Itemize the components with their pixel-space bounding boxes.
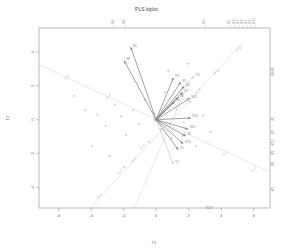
variable-vector <box>156 78 173 120</box>
vector-label: X8 <box>180 94 184 98</box>
sample-points-layer <box>73 63 211 168</box>
x-tick-label: 6 <box>253 213 256 218</box>
vector-label: X7 <box>184 89 188 93</box>
sample-point <box>133 110 135 112</box>
vector-label: Y3 <box>195 73 199 77</box>
vector-label: Y1 <box>180 146 184 150</box>
top-axis-tick-label: X11 <box>252 18 256 24</box>
variable-vector <box>156 76 193 119</box>
x-tick-label: 4 <box>220 213 223 218</box>
vector-label: X4 <box>133 44 137 48</box>
sample-point <box>124 166 126 168</box>
sample-point <box>210 131 212 133</box>
calibration-tick-label: 2 <box>120 169 122 173</box>
sample-point <box>109 155 111 157</box>
calibration-tick-label: 1 <box>255 166 257 170</box>
bottom-axis-tick-label: X13 <box>206 206 212 210</box>
right-axis-tick-label: X2 <box>272 151 276 155</box>
calibration-tick-label: 12 <box>238 46 242 50</box>
right-axis-tick-label: X3 <box>272 162 276 166</box>
sample-point <box>160 128 162 130</box>
top-axis-tick-label: X9 <box>202 20 206 24</box>
variable-vector <box>156 120 173 164</box>
calibration-axes-layer: 654321024810126 <box>39 42 268 208</box>
top-axis-tick-label: X5 <box>227 20 231 24</box>
sample-point <box>120 115 122 117</box>
plot-border <box>39 28 270 208</box>
vector-label: X9 <box>175 74 179 78</box>
variable-vector <box>124 61 156 120</box>
sample-point <box>105 125 107 127</box>
top-axis-tick-label: X4 <box>111 20 115 24</box>
sample-point <box>202 115 204 117</box>
x-tick-label: -4 <box>89 213 93 218</box>
variable-vectors-layer: X4X6X9X5X3X7X8X1X11X10X12X2X13Y1Y2Y3 <box>124 44 199 164</box>
sample-point <box>125 134 127 136</box>
chart-title: PLS biplot <box>135 6 158 12</box>
right-axis-tick-label: X7 <box>272 130 276 134</box>
right-axis-tick-label: X4 <box>272 72 276 76</box>
variable-vector <box>156 120 185 136</box>
sample-point <box>189 101 191 103</box>
sample-point <box>187 63 189 65</box>
y-tick-label: 2 <box>30 84 35 87</box>
sample-point <box>171 137 173 139</box>
x-tick-label: -2 <box>122 213 126 218</box>
vector-label: X12 <box>190 125 196 129</box>
variable-vector <box>156 120 183 144</box>
sample-point <box>148 141 150 143</box>
vector-label: X1 <box>176 98 180 102</box>
calibration-tick-label: 4 <box>143 144 145 148</box>
y-tick-label: 4 <box>30 50 35 53</box>
right-axis-tick-label: X2 <box>272 187 276 191</box>
vector-label: X13 <box>185 140 191 144</box>
vector-label: Y2 <box>175 160 179 164</box>
sample-point <box>195 145 197 147</box>
right-axis-tick-label: X6 <box>272 67 276 71</box>
sample-point <box>176 109 178 111</box>
y-tick-label: -4 <box>30 185 35 189</box>
plot-frame-layer <box>39 28 270 208</box>
plot-canvas: 654321024810126 X4X6X9X5X3X7X8X1X11X10X1… <box>0 0 293 251</box>
x-tick-label: -6 <box>57 213 61 218</box>
vector-label: X11 <box>191 95 197 99</box>
y-axis-label: T2 <box>5 115 10 121</box>
vector-label: X6 <box>126 57 130 61</box>
x-tick-label: 2 <box>187 213 190 218</box>
sample-point <box>97 114 99 116</box>
variable-vector <box>156 102 174 120</box>
sample-point <box>138 123 140 125</box>
sample-point <box>114 104 116 106</box>
sample-point <box>164 92 166 94</box>
sample-point <box>85 110 87 112</box>
sample-point <box>183 121 185 123</box>
calibration-tick-label: 10 <box>216 69 220 73</box>
calibration-axis <box>39 65 268 172</box>
variable-vector <box>156 98 189 119</box>
x-tick-label: 0 <box>155 213 158 218</box>
vector-label: X2 <box>187 132 191 136</box>
x-axis-label: T1 <box>152 240 158 245</box>
pls-biplot-figure: 654321024810126 X4X6X9X5X3X7X8X1X11X10X1… <box>0 0 293 251</box>
calibration-tick-label: 5 <box>109 93 111 97</box>
y-tick-label: -2 <box>30 151 35 155</box>
sample-point <box>73 95 75 97</box>
sample-point <box>91 145 93 147</box>
top-axis-tick-label: X6 <box>122 20 126 24</box>
vector-label: X10 <box>192 114 198 118</box>
right-axis-tick-label: X12 <box>272 139 276 145</box>
right-axis-tick-label: X1 <box>272 117 276 121</box>
calibration-tick-label: 6 <box>67 74 69 78</box>
y-tick-label: 0 <box>30 118 35 121</box>
sample-point <box>167 70 169 72</box>
